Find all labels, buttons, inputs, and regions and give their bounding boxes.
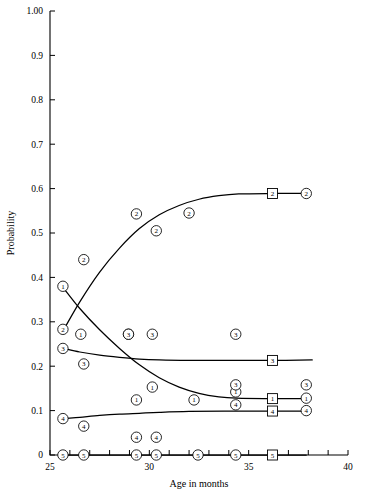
x-axis-title: Age in months [170, 478, 229, 489]
fit-marker-series-5-label: 5 [271, 452, 275, 460]
y-axis-tick-label: 0.2 [31, 362, 43, 372]
data-point-series-5-0-label: 5 [61, 452, 65, 460]
data-point-series-5-3-label: 5 [155, 452, 159, 460]
x-axis-tick-label: 40 [343, 462, 353, 472]
data-point-series-2-2-label: 2 [135, 210, 139, 218]
data-point-series-3-3-label: 3 [151, 331, 155, 339]
data-point-series-2-0-label: 2 [61, 326, 65, 334]
y-axis-tick-label: 0.9 [31, 51, 43, 61]
data-point-series-1-4-label: 1 [135, 396, 139, 404]
data-point-series-5-2-label: 5 [135, 452, 139, 460]
data-point-series-3-0-label: 3 [61, 345, 65, 353]
data-point-series-4-1-label: 4 [82, 423, 86, 431]
x-axis-tick-label: 35 [244, 462, 254, 472]
y-axis-tick-label: 0.4 [31, 273, 43, 283]
data-point-series-1-3-label: 1 [151, 384, 155, 392]
x-axis-tick-label: 25 [45, 462, 55, 472]
data-point-series-1-7-label: 1 [305, 395, 309, 403]
y-axis-tick-label: 0.8 [31, 95, 43, 105]
y-axis-tick-label: 0.6 [31, 184, 43, 194]
y-axis-title: Probability [5, 211, 16, 255]
data-point-series-3-4-label: 3 [234, 331, 238, 339]
data-point-series-2-3-label: 2 [155, 227, 159, 235]
y-axis-tick-label: 0.3 [31, 317, 43, 327]
data-point-series-3-5-label: 3 [234, 381, 238, 389]
data-point-series-1-5-label: 1 [192, 396, 196, 404]
data-point-series-1-1-label: 1 [79, 331, 83, 339]
data-point-series-2-4-label: 2 [187, 210, 191, 218]
data-point-series-4-4-label: 4 [234, 401, 238, 409]
data-point-series-3-2-label: 3 [127, 331, 131, 339]
chart-canvas: 1.000.90.80.70.60.50.40.30.20.1025303540… [0, 0, 369, 496]
fit-curve-series-1 [64, 289, 306, 399]
probability-vs-age-chart: 1.000.90.80.70.60.50.40.30.20.1025303540… [0, 0, 369, 496]
data-point-series-4-5-label: 4 [305, 407, 309, 415]
y-axis-tick-label: 0 [38, 450, 43, 460]
data-point-series-5-1-label: 5 [82, 452, 86, 460]
data-point-series-5-5-label: 5 [234, 452, 238, 460]
data-point-series-5-4-label: 5 [196, 452, 200, 460]
data-point-series-4-3-label: 4 [155, 434, 159, 442]
data-point-series-2-5-label: 2 [305, 190, 309, 198]
fit-marker-series-2-label: 2 [271, 190, 275, 198]
fit-marker-series-3-label: 3 [271, 357, 275, 365]
x-axis-tick-label: 30 [145, 462, 155, 472]
data-point-series-1-0-label: 1 [61, 283, 65, 291]
fit-marker-series-1-label: 1 [271, 395, 275, 403]
y-axis-tick-label: 1.00 [26, 6, 43, 16]
y-axis-tick-label: 0.7 [31, 140, 43, 150]
data-point-series-4-2-label: 4 [135, 434, 139, 442]
data-point-series-2-1-label: 2 [82, 256, 86, 264]
data-point-series-3-1-label: 3 [82, 360, 86, 368]
data-point-series-4-0-label: 4 [61, 415, 65, 423]
data-point-series-3-6-label: 3 [305, 381, 309, 389]
fit-marker-series-4-label: 4 [271, 408, 275, 416]
y-axis-tick-label: 0.5 [31, 228, 43, 238]
y-axis-tick-label: 0.1 [31, 406, 43, 416]
